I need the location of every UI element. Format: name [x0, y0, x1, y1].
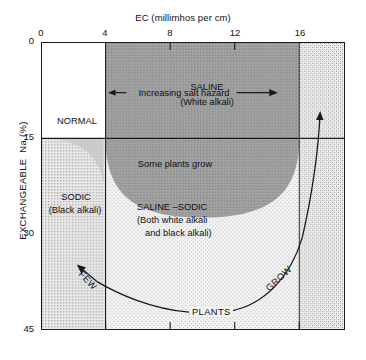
region-sublabel-saline-sodic-2: and black alkali)	[145, 227, 212, 240]
curve-label-plants: PLANTS	[190, 307, 233, 317]
salinity-sodicity-chart: EC (millimhos per cm) EXCHANGEABLE Na (%…	[0, 0, 366, 360]
x-tick-label-8: 8	[159, 27, 181, 38]
annotation-increasing-salt-hazard: Increasing salt hazard	[130, 87, 238, 100]
y-tick-label-45: 45	[12, 323, 34, 334]
plot-area: NORMAL SALINE (White alkali) Increasing …	[41, 42, 345, 330]
region-label-sodic: SODIC	[50, 191, 102, 204]
x-axis-title: EC (millimhos per cm)	[0, 12, 366, 23]
x-tick-label-4: 4	[94, 27, 116, 38]
y-axis-title: EXCHANGEABLE Na (%)	[17, 81, 28, 281]
region-sublabel-sodic: (Black alkali)	[43, 204, 107, 217]
x-tick-label-16: 16	[289, 27, 311, 38]
region-label-normal: NORMAL	[52, 115, 102, 128]
y-tick-label-0: 0	[12, 35, 34, 46]
x-tick-label-12: 12	[224, 27, 246, 38]
region-label-saline-sodic: SALINE –SODIC	[137, 201, 207, 214]
region-sublabel-saline-sodic-1: (Both white alkali	[137, 214, 207, 227]
y-tick-label-15: 15	[12, 131, 34, 142]
y-tick-label-30: 30	[12, 227, 34, 238]
region-label-some-plants-grow: Some plants grow	[120, 158, 230, 171]
